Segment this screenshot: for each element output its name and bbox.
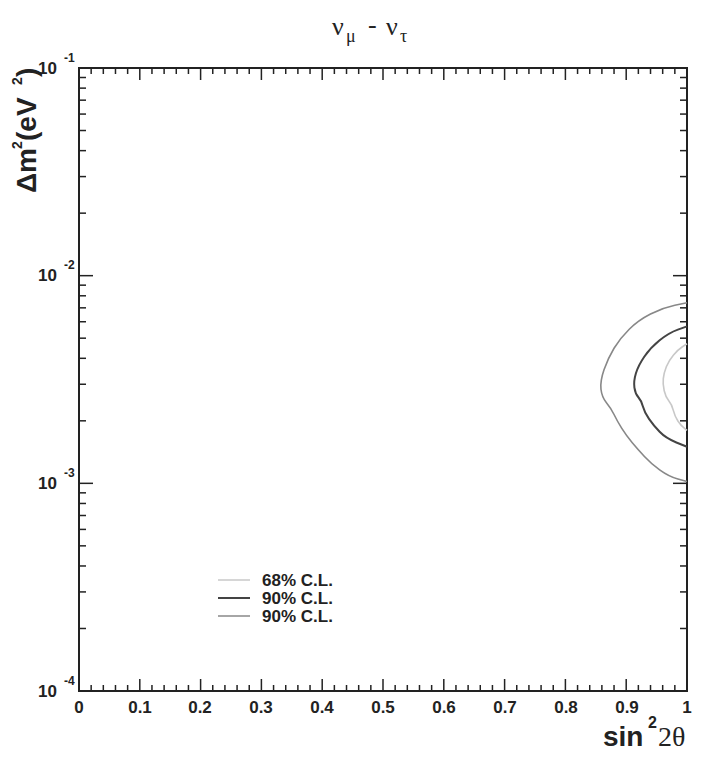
plot-frame	[79, 68, 687, 691]
legend-label-90-light: 90% C.L.	[262, 607, 333, 626]
ylabel-delta-m: Δm	[11, 148, 42, 193]
chart: ν μ - ν τ Δm 2 (eV 2 ) 10 -1 10 -2 10 -3…	[0, 0, 705, 759]
ylabel-sup: 2	[9, 141, 25, 149]
xlabel-2theta: 2θ	[658, 721, 685, 752]
y-tick-labels: 10 -1 10 -2 10 -3 10 -4	[38, 51, 75, 701]
legend: 68% C.L. 90% C.L. 90% C.L.	[218, 571, 333, 626]
y-tick-1e-3-exp: -3	[64, 466, 75, 480]
x-axis-label: sin 2 2θ	[603, 714, 685, 752]
y-tick-1e-1: 10	[38, 59, 57, 78]
title-sub-tau: τ	[400, 26, 407, 46]
x-tick-0.3: 0.3	[249, 698, 273, 717]
title-dash: -	[368, 10, 377, 39]
title-sub-mu: μ	[346, 26, 356, 46]
x-tick-labels: 0 0.1 0.2 0.3 0.4 0.5 0.6 0.7 0.8 0.9 1	[74, 698, 691, 717]
confidence-contours	[601, 303, 687, 482]
y-tick-1e-2: 10	[38, 266, 57, 285]
x-tick-0.1: 0.1	[128, 698, 152, 717]
ylabel-sup2: 2	[9, 77, 25, 85]
contour-90cl-light	[601, 303, 687, 482]
xlabel-sup: 2	[648, 714, 657, 731]
x-tick-0.7: 0.7	[493, 698, 517, 717]
y-tick-1e-2-exp: -2	[64, 258, 75, 272]
x-tick-0.6: 0.6	[432, 698, 456, 717]
y-axis-label: Δm 2 (eV 2 )	[9, 68, 42, 193]
x-tick-0.2: 0.2	[188, 698, 212, 717]
y-tick-1e-4: 10	[38, 682, 57, 701]
contour-90cl-dark	[634, 326, 687, 446]
y-tick-1e-4-exp: -4	[64, 674, 75, 688]
legend-label-90-dark: 90% C.L.	[262, 589, 333, 608]
y-tick-1e-1-exp: -1	[64, 51, 75, 65]
axis-ticks	[79, 68, 687, 691]
x-tick-0.8: 0.8	[554, 698, 578, 717]
title-nu-mu: ν	[332, 12, 344, 41]
x-tick-1: 1	[682, 698, 691, 717]
title-nu-tau: ν	[386, 12, 398, 41]
x-tick-0.9: 0.9	[615, 698, 639, 717]
chart-title: ν μ - ν τ	[332, 10, 407, 46]
y-tick-1e-3: 10	[38, 474, 57, 493]
ylabel-unit: (eV	[11, 97, 42, 141]
contour-68cl	[663, 344, 687, 431]
x-tick-0: 0	[74, 698, 83, 717]
xlabel-sin: sin	[603, 721, 643, 752]
x-tick-0.5: 0.5	[371, 698, 395, 717]
x-tick-0.4: 0.4	[310, 698, 334, 717]
legend-label-68: 68% C.L.	[262, 571, 333, 590]
